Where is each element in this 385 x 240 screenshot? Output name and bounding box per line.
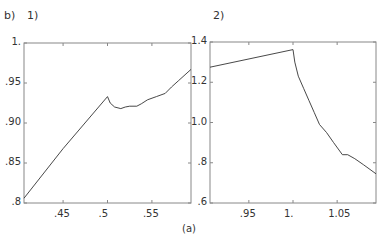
data-line-2	[210, 50, 376, 174]
y-tick-label: 1.	[11, 36, 21, 47]
y-tick-label: .85	[5, 156, 21, 167]
x-tick-label: 1.05	[328, 208, 350, 219]
y-tick-label: .8	[11, 196, 21, 207]
y-tick-label: .8	[197, 156, 207, 167]
x-tick-label: .45	[54, 208, 70, 219]
data-line-1	[24, 69, 191, 198]
x-tick-label: .95	[240, 208, 256, 219]
plot-frame-1	[24, 43, 191, 203]
y-tick-label: 1.2	[191, 75, 207, 86]
plot-frame-2	[210, 42, 376, 203]
y-tick-label: .90	[5, 116, 21, 127]
y-tick-label: .6	[197, 196, 207, 207]
y-tick-label: .95	[5, 76, 21, 87]
x-tick-label: .5	[99, 208, 109, 219]
y-tick-label: 1.4	[191, 35, 207, 46]
y-tick-label: 1.0	[191, 116, 207, 127]
x-tick-label: 1.	[284, 208, 294, 219]
x-tick-label: .55	[143, 208, 159, 219]
